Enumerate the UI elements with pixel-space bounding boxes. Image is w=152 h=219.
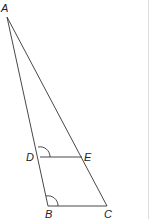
label-c: C: [104, 208, 112, 219]
label-b: B: [45, 208, 52, 219]
segment-ab: [7, 17, 48, 206]
triangle-diagram: A D E B C: [0, 0, 152, 219]
label-a: A: [0, 2, 8, 14]
segment-ac: [7, 17, 107, 206]
angle-mark-d: [38, 147, 50, 157]
label-e: E: [84, 151, 92, 163]
label-d: D: [26, 151, 34, 163]
